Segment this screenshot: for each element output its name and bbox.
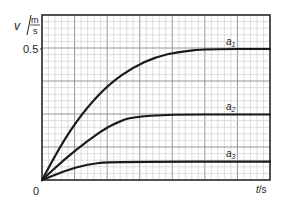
svg-text:a2: a2 [226, 101, 236, 113]
y-tick-0.5: 0.5 [23, 43, 38, 55]
series-label-a1: a1 [226, 36, 236, 48]
series-label-a3: a3 [226, 148, 236, 160]
x-axis-unit: /s [259, 184, 267, 195]
y-axis-label: v m s [14, 15, 40, 36]
curve-a3 [42, 162, 270, 180]
y-axis-unit-den: s [33, 26, 38, 36]
svg-text:a3: a3 [226, 148, 236, 160]
svg-text:a1: a1 [226, 36, 236, 48]
origin-label: 0 [33, 185, 39, 197]
svg-text:t/s: t/s [256, 184, 267, 195]
y-axis-symbol: v [14, 19, 21, 33]
series-label-a2: a2 [226, 101, 236, 113]
y-axis-unit-num: m [31, 15, 39, 25]
chart: v m s 0.5 0 t/s a1 a2 a3 [0, 0, 286, 207]
grid [40, 15, 270, 180]
x-axis-label: t/s [256, 184, 267, 195]
